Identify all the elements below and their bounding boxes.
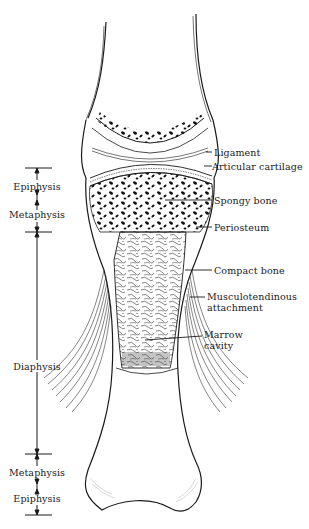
label-ligament: Ligament [214,147,260,158]
label-marrow-cavity: Marrow cavity [204,329,243,351]
bone-anatomy-diagram: Epiphysis Metaphysis Diaphysis Metaphysi… [0,0,309,529]
marrow-cavity-region [114,232,186,368]
label-metaphysis-lower: Metaphysis [2,467,72,478]
label-diaphysis: Diaphysis [2,361,72,372]
label-metaphysis-upper: Metaphysis [2,209,72,220]
tendon-fibers-left [44,270,111,412]
label-compact-bone: Compact bone [214,265,285,276]
label-periosteum: Periosteum [214,222,269,233]
marrow-base-shading [122,352,170,366]
upper-spongy-bone [96,112,204,143]
label-spongy-bone: Spongy bone [214,195,278,206]
distal-hatching [90,478,198,502]
label-epiphysis-upper: Epiphysis [2,181,72,192]
label-musculotendinous-attachment: Musculotendinous attachment [207,291,297,313]
label-epiphysis-lower: Epiphysis [2,493,72,504]
region-bracket [25,168,52,515]
label-articular-cartilage: Articular cartilage [212,161,303,172]
joint-capsule [82,120,219,178]
cavity-floor [116,368,178,374]
spongy-bone-region [89,172,212,232]
